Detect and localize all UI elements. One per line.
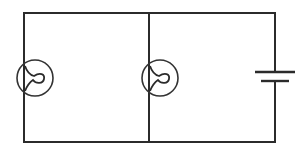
lamp-1-ring (17, 60, 53, 96)
lamp-1-filament (25, 66, 44, 91)
wires (24, 13, 275, 142)
lamp-icon (17, 60, 53, 96)
circuit-diagram (0, 0, 304, 154)
battery-icon (255, 72, 295, 81)
lamp-2-ring (142, 60, 178, 96)
lamp-icon (142, 60, 178, 96)
lamp-2-filament (150, 66, 169, 91)
